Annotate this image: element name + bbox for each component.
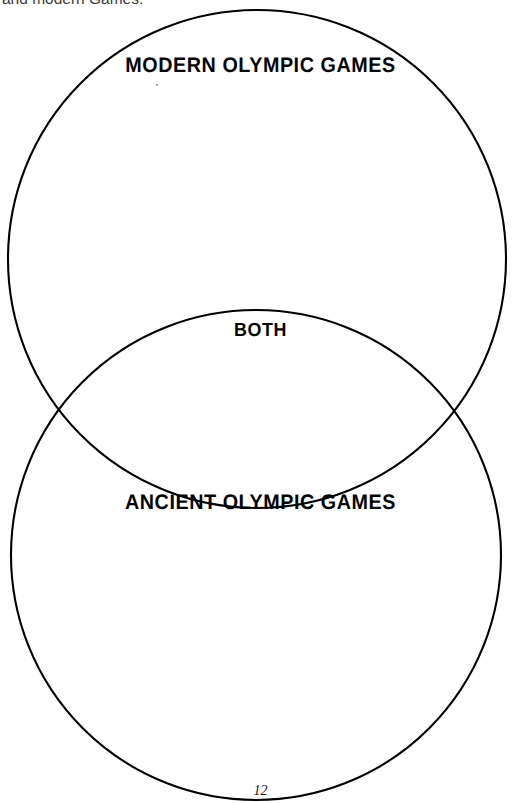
worksheet-page: and modern Games. MODERN OLYMPIC GAMES B… [0, 0, 521, 803]
ancient-olympic-games-circle[interactable] [11, 310, 501, 800]
ancient-olympic-games-label: ANCIENT OLYMPIC GAMES [16, 491, 506, 515]
venn-diagram [0, 0, 521, 803]
modern-olympic-games-label: MODERN OLYMPIC GAMES [16, 54, 506, 78]
modern-olympic-games-circle[interactable] [8, 10, 506, 508]
scan-speck-artifact [156, 84, 158, 86]
both-overlap-label: BOTH [16, 320, 506, 342]
page-number: 12 [0, 783, 521, 799]
